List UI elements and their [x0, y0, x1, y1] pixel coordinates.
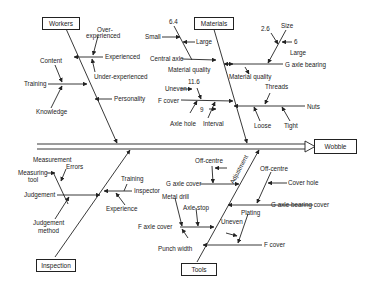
label-metal-drill: Metal drill	[162, 194, 189, 200]
label-tight: Tight	[284, 123, 298, 129]
label-inspector: Inspector	[134, 188, 160, 194]
label-f-axle-cover: F axle cover	[138, 224, 172, 230]
label-cover-hole: Cover hole	[288, 180, 318, 186]
label-threads: Threads	[265, 84, 288, 90]
label-off-centre-1: Off-centre	[195, 158, 223, 164]
label-material-quality-2: Material quality	[229, 74, 271, 80]
label-g-axle-bearing: G axle bearing	[285, 62, 326, 68]
label-knowledge: Knowledge	[36, 109, 67, 115]
label-over-experienced-2: experienced	[86, 33, 120, 39]
label-f-cover: F cover	[158, 98, 179, 104]
effect-box-wobble: Wobble	[314, 139, 357, 154]
label-large: Large	[196, 39, 212, 45]
label-errors: Errors	[66, 164, 83, 170]
label-under-experienced: Under-experienced	[94, 74, 148, 80]
label-size: Size	[281, 23, 293, 29]
label-f-cover-tools: F cover	[264, 242, 285, 248]
label-axle-stop: Axle stop	[183, 205, 209, 211]
label-personality: Personality	[114, 96, 145, 102]
label-experienced: Experienced	[105, 54, 140, 60]
label-off-centre-2: Off-centre	[260, 166, 288, 172]
label-small: Small	[145, 34, 161, 40]
label-plating: Plating	[241, 210, 260, 216]
label-6-4: 6.4	[169, 19, 178, 25]
label-9: 9	[200, 107, 204, 113]
label-interval: Interval	[203, 121, 224, 127]
label-material-quality-1: Material quality	[168, 67, 210, 73]
label-g-axle-bearing-cover: G axle bearing cover	[271, 202, 329, 208]
label-nuts: Nuts	[307, 104, 320, 110]
label-training-inspection: Training	[121, 176, 144, 182]
label-large-2: Large	[290, 50, 306, 56]
label-training: Training	[24, 81, 47, 87]
label-11-6: 11.6	[188, 79, 200, 85]
label-g-axle-cover: G axle cover	[166, 181, 201, 187]
label-measuring-tool-2: tool	[28, 177, 38, 183]
label-uneven: Uneven	[165, 86, 187, 92]
label-judgement: Judgement	[24, 192, 55, 198]
category-box-tools: Tools	[181, 263, 217, 276]
label-axle-hole: Axle hole	[170, 121, 196, 127]
label-loose: Loose	[254, 123, 271, 129]
label-central-axle: Central axle	[150, 56, 184, 62]
label-6: 6	[294, 39, 298, 45]
label-judgement-method-1: Judgement	[33, 220, 64, 226]
category-box-materials: Materials	[194, 17, 234, 30]
label-experience: Experience	[106, 206, 138, 212]
category-box-inspection: Inspection	[36, 259, 76, 272]
label-punch-width: Punch width	[158, 246, 192, 252]
label-uneven-tools: Uneven	[221, 219, 243, 225]
category-box-workers: Workers	[42, 17, 80, 30]
label-content: Content	[40, 58, 62, 64]
label-judgement-method-2: method	[38, 228, 59, 234]
label-2-6: 2.6	[261, 26, 270, 32]
